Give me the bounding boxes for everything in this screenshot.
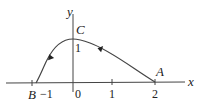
y-tick-label-1: 1 <box>75 41 81 55</box>
x-axis-label: x <box>187 74 194 89</box>
curve-path <box>36 39 155 83</box>
tick-label-neg1: −1 <box>40 87 53 101</box>
curve-diagram: y x C A B −1 0 1 2 1 <box>0 0 208 111</box>
x-axis <box>6 82 185 83</box>
point-label-b: B <box>28 87 36 102</box>
point-label-a: A <box>155 64 164 79</box>
tick-label-1: 1 <box>109 87 115 101</box>
y-axis-label: y <box>65 4 73 19</box>
point-label-c: C <box>76 22 85 37</box>
tick-label-2: 2 <box>152 87 158 101</box>
tick-label-0: 0 <box>75 87 81 101</box>
